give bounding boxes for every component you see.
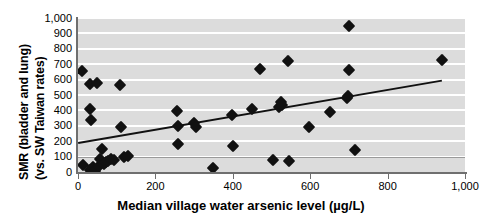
gridline-y-300 (78, 125, 465, 127)
x-tick-label-400: 400 (203, 180, 263, 192)
x-tick-mark-200 (155, 174, 156, 179)
gridline-y-200 (78, 140, 465, 142)
y-axis-title-line-1: SMR (bladder and lung) (17, 44, 31, 180)
gridline-y-700 (78, 63, 465, 65)
x-tick-mark-600 (310, 174, 311, 179)
data-point-marker (323, 106, 336, 119)
y-tick-label-0: 0 (36, 167, 72, 178)
x-tick-label-600: 600 (280, 180, 340, 192)
y-tick-label-400: 400 (36, 105, 72, 116)
data-point-marker (303, 120, 316, 133)
y-tick-label-200: 200 (36, 136, 72, 147)
x-tick-mark-1000 (465, 174, 466, 179)
gridline-y-600 (78, 79, 465, 81)
gridline-y-800 (78, 48, 465, 50)
x-tick-label-1000: 1,000 (435, 180, 482, 192)
trend-line-segment (78, 80, 442, 144)
x-tick-mark-400 (233, 174, 234, 179)
x-tick-label-200: 200 (125, 180, 185, 192)
y-tick-label-500: 500 (36, 90, 72, 101)
gridline-y-1000 (78, 18, 465, 19)
data-point-marker (78, 65, 88, 78)
x-tick-mark-0 (78, 174, 79, 179)
x-axis-line (76, 172, 467, 174)
data-point-marker (343, 64, 356, 77)
y-tick-label-600: 600 (36, 74, 72, 85)
data-point-marker (348, 143, 361, 156)
y-tick-label-700: 700 (36, 59, 72, 70)
y-tick-label-300: 300 (36, 120, 72, 131)
gridline-y-900 (78, 32, 465, 34)
x-tick-label-0: 0 (48, 180, 108, 192)
data-point-marker (171, 119, 184, 132)
data-point-marker (171, 137, 184, 150)
plot-area (78, 18, 465, 172)
data-point-marker (281, 55, 294, 68)
y-tick-label-800: 800 (36, 43, 72, 54)
x-tick-label-800: 800 (358, 180, 418, 192)
gridline-y-500 (78, 94, 465, 96)
x-axis-title: Median village water arsenic level (µg/L… (0, 198, 482, 213)
data-point-marker (114, 121, 127, 134)
x-tick-mark-800 (388, 174, 389, 179)
data-point-marker (343, 19, 356, 32)
y-tick-label-100: 100 (36, 151, 72, 162)
data-point-marker (207, 162, 220, 172)
y-tick-label-900: 900 (36, 28, 72, 39)
scatter-chart: SMR (bladder and lung) (vs. SW Taiwan ra… (0, 0, 482, 224)
data-point-marker (170, 104, 183, 117)
y-tick-label-1000: 1,000 (36, 13, 72, 24)
